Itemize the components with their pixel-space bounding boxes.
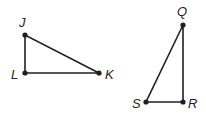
triangle-qrs: Q R S [132, 4, 197, 111]
label-l: L [11, 67, 18, 82]
vertex-k [96, 70, 101, 75]
vertex-q [180, 22, 185, 27]
label-r: R [188, 96, 197, 111]
vertex-j [22, 32, 27, 37]
triangle-jlk-edges [25, 35, 99, 73]
label-q: Q [177, 4, 187, 19]
label-s: S [132, 96, 141, 111]
triangles-diagram: J L K Q R S [0, 0, 206, 115]
triangle-qrs-edges [146, 25, 183, 102]
vertex-s [143, 99, 148, 104]
label-k: K [105, 67, 115, 82]
triangle-jlk: J L K [11, 15, 115, 82]
vertex-r [180, 99, 185, 104]
vertex-l [22, 70, 27, 75]
label-j: J [18, 15, 26, 30]
